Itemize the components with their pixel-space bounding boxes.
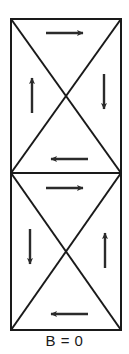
domain-structure-svg (0, 0, 129, 354)
outer-frame-rect (11, 19, 121, 330)
figure-caption: B = 0 (0, 331, 129, 351)
magnetic-domain-figure: B = 0 (0, 0, 129, 354)
